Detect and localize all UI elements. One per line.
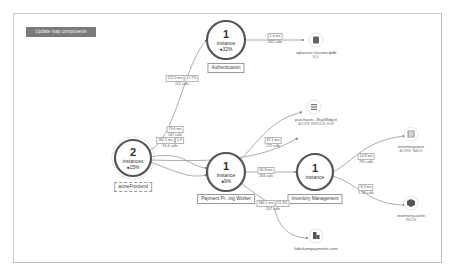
node-frontend-label[interactable]: acmeFrontend — [114, 182, 152, 192]
edge-label-frontend-payment-1[interactable]: 79.6 ms 147 calls — [167, 126, 184, 137]
edge-label-payment-http[interactable]: 384.1 ms21.3% 207 calls — [257, 200, 290, 211]
azure-table-icon[interactable] — [404, 127, 418, 141]
edge-label-payment-inventory[interactable]: 30.8 ms 263 calls — [258, 167, 275, 178]
sql-database-icon[interactable] — [309, 33, 323, 47]
dep-http-label: fabrikampayments.com — [294, 246, 337, 251]
redis-cache-icon[interactable] — [404, 196, 418, 210]
dep-sql-label: sqlserver://acmesqldbSQL — [296, 50, 337, 60]
node-inventory-label[interactable]: Inventory Management — [288, 194, 343, 204]
dep-queue-label: purchasin...BuyWidgetAZURE SERVICE HUB — [295, 117, 337, 127]
node-inventory-text: 1 instance — [306, 163, 325, 180]
edge-label-auth-sql[interactable]: 1.4 ms 402 calls — [268, 33, 283, 44]
edge-frontend-payment-1[interactable] — [150, 155, 207, 168]
edge-payment-queue[interactable] — [240, 112, 302, 160]
node-payment-label[interactable]: Payment Pr...ing Worker — [197, 194, 255, 204]
node-payment-text: 1 instance ●9% — [217, 161, 236, 184]
node-auth-text: 1 instance ●32% — [217, 29, 236, 52]
dep-redis-label: inventorycacheREDIS — [397, 213, 425, 223]
edge-label-inventory-table[interactable]: 14.8 ms 791 calls — [358, 153, 375, 164]
edge-label-frontend-auth[interactable]: 122.9 ms17.7% 112 calls — [166, 75, 199, 86]
edge-label-inventory-redis[interactable]: 8.3 ms 1.1K calls — [358, 184, 374, 195]
dep-table-label: inventorystoreAZURE TABLE — [398, 144, 424, 154]
edge-label-frontend-payment-2[interactable]: 182.1 ms5.9 91.6 calls — [156, 137, 184, 148]
edge-frontend-payment-2[interactable] — [150, 162, 207, 176]
service-bus-icon[interactable] — [307, 100, 321, 114]
http-endpoint-icon[interactable] — [309, 229, 323, 243]
node-frontend-text: 2 instances ●15% — [122, 147, 143, 170]
edge-label-payment-queue[interactable]: 37.1 ms 172 calls — [265, 137, 282, 148]
node-auth-label[interactable]: Authentication — [207, 63, 244, 73]
